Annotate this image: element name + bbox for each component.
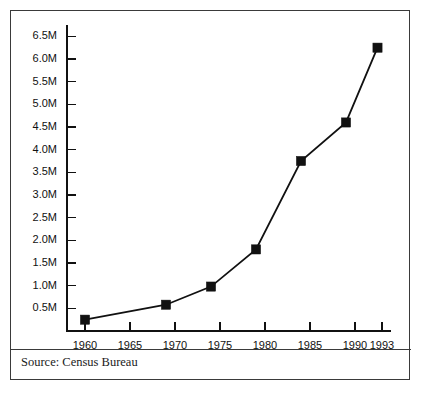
- line-chart[interactable]: 0.5M1.0M1.5M2.0M2.5M3.0M3.5M4.0M4.5M5.0M…: [11, 11, 411, 381]
- data-series-markers: [80, 43, 382, 324]
- y-tick-label: 4.5M: [33, 120, 57, 132]
- data-point-marker[interactable]: [161, 300, 170, 309]
- data-point-marker[interactable]: [251, 245, 260, 254]
- data-point-marker[interactable]: [341, 118, 350, 127]
- data-point-marker[interactable]: [373, 43, 382, 52]
- y-tick-label: 2.0M: [33, 233, 57, 245]
- chart-frame: 0.5M1.0M1.5M2.0M2.5M3.0M3.5M4.0M4.5M5.0M…: [10, 10, 410, 380]
- data-series-line: [85, 48, 378, 320]
- y-tick-label: 3.0M: [33, 188, 57, 200]
- data-point-marker[interactable]: [206, 282, 215, 291]
- y-axis-tick-marks: [67, 36, 76, 308]
- y-tick-label: 6.5M: [33, 29, 57, 41]
- y-tick-label: 4.0M: [33, 143, 57, 155]
- figure-container: 0.5M1.0M1.5M2.0M2.5M3.0M3.5M4.0M4.5M5.0M…: [0, 0, 426, 396]
- data-point-marker[interactable]: [80, 315, 89, 324]
- y-axis-tick-labels: 0.5M1.0M1.5M2.0M2.5M3.0M3.5M4.0M4.5M5.0M…: [33, 29, 57, 313]
- y-tick-label: 1.0M: [33, 279, 57, 291]
- x-axis-tick-marks: [85, 322, 382, 331]
- chart-axes: [67, 25, 391, 331]
- data-point-marker[interactable]: [296, 156, 305, 165]
- y-tick-label: 2.5M: [33, 211, 57, 223]
- source-note: Source: Census Bureau: [21, 355, 138, 369]
- y-tick-label: 0.5M: [33, 301, 57, 313]
- y-tick-label: 6.0M: [33, 52, 57, 64]
- y-tick-label: 5.0M: [33, 97, 57, 109]
- y-tick-label: 5.5M: [33, 75, 57, 87]
- y-tick-label: 3.5M: [33, 165, 57, 177]
- y-tick-label: 1.5M: [33, 256, 57, 268]
